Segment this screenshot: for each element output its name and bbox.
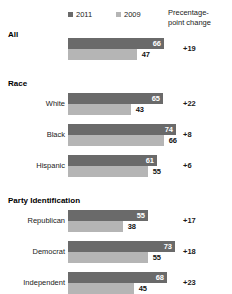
bar-value-republican-2009: 38 <box>128 223 136 231</box>
bar-value-hispanic-2009: 55 <box>153 168 161 176</box>
change-value-hispanic: +6 <box>183 161 192 170</box>
bar-republican-2009: 38 <box>68 221 123 232</box>
bar-value-independent-2011: 68 <box>156 274 164 282</box>
change-value-independent: +23 <box>183 278 196 287</box>
bar-hispanic-2011: 61 <box>68 155 157 166</box>
bar-value-democrat-2009: 55 <box>153 254 161 262</box>
bar-value-republican-2011: 55 <box>137 212 145 220</box>
row-label-republican: Republican <box>0 216 65 225</box>
bar-independent-2011: 68 <box>68 272 167 283</box>
section-heading-party-identification: Party Identification <box>8 196 80 205</box>
row-label-independent: Independent <box>0 278 65 287</box>
change-value-black: +8 <box>183 130 192 139</box>
bar-democrat-2011: 73 <box>68 241 175 252</box>
bar-hispanic-2009: 55 <box>68 166 148 177</box>
section-heading-race: Race <box>8 79 27 88</box>
legend-label-2011: 2011 <box>76 10 92 19</box>
bar-all-2011: 66 <box>68 38 164 49</box>
change-column-header: Precentage- point change <box>168 8 232 27</box>
change-value-white: +22 <box>183 99 196 108</box>
change-value-all: +19 <box>183 44 196 53</box>
row-label-hispanic: Hispanic <box>0 161 65 170</box>
legend-swatch-2009 <box>116 12 121 17</box>
bar-white-2009: 43 <box>68 104 131 115</box>
bar-value-all-2009: 47 <box>142 51 150 59</box>
legend-label-2009: 2009 <box>124 10 141 19</box>
bar-republican-2011: 55 <box>68 210 148 221</box>
row-label-black: Black <box>0 130 65 139</box>
row-label-white: White <box>0 99 65 108</box>
bar-black-2011: 74 <box>68 124 176 135</box>
bar-white-2011: 65 <box>68 93 163 104</box>
bar-value-all-2011: 66 <box>153 40 161 48</box>
bar-value-hispanic-2011: 61 <box>146 157 154 165</box>
bar-value-democrat-2011: 73 <box>164 243 172 251</box>
bar-black-2009: 66 <box>68 135 164 146</box>
bar-value-white-2011: 65 <box>152 95 160 103</box>
chart-legend: 2011 2009 Precentage- point change <box>68 10 214 32</box>
legend-entry-2011: 2011 <box>68 10 92 19</box>
bar-value-black-2011: 74 <box>165 126 173 134</box>
change-value-democrat: +18 <box>183 247 196 256</box>
bar-value-independent-2009: 45 <box>139 285 147 293</box>
bar-value-white-2009: 43 <box>136 106 144 114</box>
change-value-republican: +17 <box>183 216 196 225</box>
bar-all-2009: 47 <box>68 49 137 60</box>
bar-value-black-2009: 66 <box>169 137 177 145</box>
section-heading-all: All <box>8 30 18 39</box>
legend-entry-2009: 2009 <box>116 10 141 19</box>
bar-independent-2009: 45 <box>68 283 134 294</box>
row-label-democrat: Democrat <box>0 247 65 256</box>
change-column-header-line2: point change <box>168 18 211 27</box>
bar-democrat-2009: 55 <box>68 252 148 263</box>
change-column-header-line1: Precentage- <box>168 8 209 17</box>
legend-swatch-2011 <box>68 12 73 17</box>
